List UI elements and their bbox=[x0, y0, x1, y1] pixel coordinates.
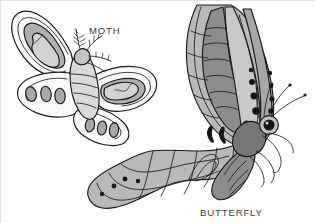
butterfly-tail-dot bbox=[100, 192, 103, 195]
butterfly-eye bbox=[264, 120, 274, 130]
butterfly-spot bbox=[251, 93, 257, 99]
butterfly-spot bbox=[250, 80, 255, 85]
antenna-club bbox=[271, 83, 274, 86]
butterfly-tail-dot bbox=[123, 177, 127, 181]
butterfly-tail-dot bbox=[112, 184, 116, 188]
moth-spot bbox=[54, 88, 65, 104]
butterfly-spot bbox=[270, 97, 274, 101]
illustration-figure: .o{stroke:#1a1a1a;stroke-width:1.15;stro… bbox=[0, 0, 315, 223]
antenna-club bbox=[303, 93, 306, 96]
butterfly-spot bbox=[268, 71, 271, 74]
antenna-club bbox=[256, 87, 259, 90]
butterfly-spot bbox=[249, 68, 252, 71]
butterfly-tail-dot bbox=[136, 179, 139, 182]
antenna-club bbox=[288, 83, 291, 86]
butterfly-eye-highlight bbox=[266, 122, 269, 125]
moth-label: MOTH bbox=[89, 25, 121, 36]
butterfly-label: BUTTERFLY bbox=[200, 207, 263, 218]
moth-butterfly-illustration: .o{stroke:#1a1a1a;stroke-width:1.15;stro… bbox=[1, 1, 315, 223]
